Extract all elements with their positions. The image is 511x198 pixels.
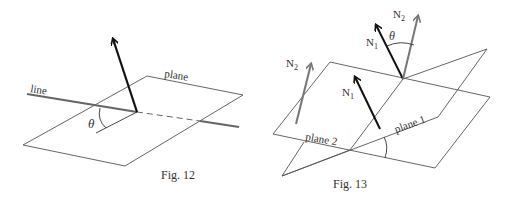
figure-caption: Fig. 13	[333, 177, 367, 191]
normal-2-arrow-upper	[403, 16, 418, 79]
figure-12: line plane θ Fig. 12	[23, 39, 243, 182]
line-segment-hidden	[137, 112, 200, 121]
plane-2-label: plane 2	[305, 130, 339, 147]
normal-2-label-left: N2	[286, 57, 298, 72]
projection-line	[96, 112, 137, 133]
normal-2-label-upper: N2	[393, 8, 405, 23]
angle-theta-label: θ	[389, 29, 395, 43]
angle-theta-label: θ	[88, 116, 95, 131]
plane-shape	[23, 76, 243, 166]
figure-13: N2 N1 N1 N2 θ plane 1 plane 2 Fig. 13	[273, 8, 490, 191]
figure-caption: Fig. 12	[161, 168, 195, 182]
line-label: line	[30, 82, 48, 96]
normal-1-label-upper: N1	[366, 36, 378, 51]
angle-arc	[99, 108, 106, 128]
line-segment-front	[27, 94, 137, 112]
dihedral-angle-arc	[384, 137, 387, 158]
normal-vector-arrow	[113, 39, 137, 112]
normal-2-arrow-left	[296, 64, 311, 124]
plane-2-shape	[273, 62, 490, 168]
diagram-canvas: line plane θ Fig. 12 N2 N1 N1 N2 θ plane…	[0, 0, 511, 198]
plane-1-label: plane 1	[393, 113, 427, 135]
line-segment-back	[200, 121, 239, 127]
plane-1-edge	[282, 150, 350, 176]
normal-1-arrow-lower	[355, 77, 380, 129]
normal-1-label-lower: N1	[342, 86, 354, 101]
